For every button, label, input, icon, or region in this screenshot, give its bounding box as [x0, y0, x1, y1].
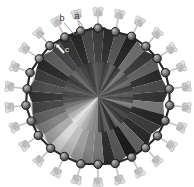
rim-sphere	[23, 85, 31, 93]
rim-sphere	[142, 42, 150, 50]
rim-sphere	[166, 101, 174, 109]
rim-sphere	[127, 153, 135, 161]
ligand-atom	[99, 183, 103, 187]
label-c: c	[65, 45, 69, 54]
rim-sphere	[60, 152, 68, 160]
ligand-atom	[186, 81, 190, 85]
rim-sphere	[111, 27, 119, 35]
ligand-group	[8, 121, 20, 134]
rim-sphere	[111, 159, 119, 167]
rim-sphere	[165, 85, 173, 93]
ligand-atom	[4, 88, 8, 92]
rim-sphere	[22, 101, 30, 109]
ligand-atom	[93, 183, 97, 187]
ligand-group	[70, 174, 82, 185]
rim-sphere	[127, 32, 135, 40]
ligand-atom	[5, 109, 9, 113]
leader-b	[64, 23, 74, 34]
label-a: a	[74, 11, 79, 21]
rim-sphere	[35, 55, 43, 63]
label-b: b	[59, 13, 64, 23]
ligand-group	[165, 42, 178, 56]
ligand-atom	[99, 7, 103, 11]
ligand-group	[8, 60, 20, 73]
rim-sphere	[153, 54, 161, 62]
rim-sphere	[34, 131, 42, 139]
rim-sphere	[46, 41, 54, 49]
ligand-group	[18, 42, 31, 56]
rim-sphere	[161, 117, 169, 125]
ligand-group	[133, 166, 147, 179]
ligand-atom	[93, 7, 97, 11]
rim-sphere	[61, 33, 69, 41]
ligand-group	[133, 15, 147, 28]
rim-sphere	[94, 24, 102, 32]
rim-sphere	[153, 132, 161, 140]
nanocluster-figure: a b c	[0, 0, 194, 187]
ligand-group	[176, 60, 188, 73]
rim-sphere	[141, 144, 149, 152]
rim-sphere	[94, 160, 102, 168]
ligand-atom	[186, 109, 190, 113]
ligand-group	[113, 9, 125, 20]
ligand-group	[50, 166, 64, 179]
rim-sphere	[46, 144, 54, 152]
rim-sphere	[26, 68, 34, 76]
rim-sphere	[27, 117, 35, 125]
figure-container: a b c	[0, 0, 194, 187]
ligand-group	[18, 139, 31, 153]
ligand-group	[113, 174, 125, 185]
ligand-atom	[187, 102, 191, 106]
ligand-group	[176, 121, 188, 134]
ligand-atom	[4, 102, 8, 106]
rim-sphere	[161, 69, 169, 77]
rim-sphere	[77, 160, 85, 168]
ligand-group	[165, 139, 178, 153]
ligand-atom	[5, 81, 9, 85]
ligand-atom	[187, 88, 191, 92]
